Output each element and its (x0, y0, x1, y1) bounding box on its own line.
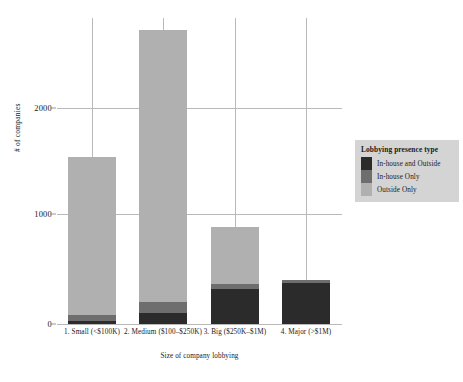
bar-major-segment-in-house-and-outside (282, 283, 330, 325)
y-tick-mark-1000 (50, 214, 56, 215)
x-tick-label-major: 4. Major (>$1M) (281, 328, 331, 336)
legend-label-in-house-only: In-house Only (377, 173, 420, 181)
legend-swatch-icon-in-house-and-outside (361, 157, 372, 170)
gridline-y-0 (57, 324, 342, 325)
x-tick-label-medium: 2. Medium ($100–$250K) (124, 328, 202, 336)
y-axis-title: # of companies (13, 103, 22, 152)
x-axis-title: Size of company lobbying (57, 352, 342, 360)
legend-label-in-house-and-outside: In-house and Outside (377, 160, 440, 168)
y-tick-mark-0 (50, 324, 56, 325)
legend-item-in-house-only[interactable]: In-house Only (359, 170, 455, 183)
bar-big[interactable] (211, 227, 259, 324)
legend-swatch-icon-outside-only (361, 183, 372, 196)
legend-title: Lobbying presence type (361, 145, 455, 154)
bar-big-segment-outside-only (211, 227, 259, 285)
bar-small-segment-outside-only (68, 157, 116, 315)
x-axis-ticks: 1. Small (<$100K) 2. Medium ($100–$250K)… (57, 328, 342, 342)
stacked-bar-chart: 0 1000 2000 # of companies (0, 0, 463, 382)
bar-medium-segment-outside-only (139, 30, 187, 302)
y-axis-ticks: 0 1000 2000 (0, 18, 52, 324)
legend-label-outside-only: Outside Only (377, 186, 417, 194)
x-tick-label-small: 1. Small (<$100K) (64, 328, 120, 336)
bars-layer (57, 18, 342, 324)
bar-medium-segment-in-house-only (139, 302, 187, 313)
x-tick-label-big: 3. Big ($250K–$1M) (204, 328, 267, 336)
bar-major[interactable] (282, 280, 330, 324)
bar-medium[interactable] (139, 30, 187, 324)
bar-medium-segment-in-house-and-outside (139, 313, 187, 324)
legend-swatch-icon-in-house-only (361, 170, 372, 183)
legend-item-outside-only[interactable]: Outside Only (359, 183, 455, 196)
legend-item-in-house-and-outside[interactable]: In-house and Outside (359, 157, 455, 170)
bar-big-segment-in-house-and-outside (211, 289, 259, 324)
plot-area (57, 18, 342, 324)
bar-small[interactable] (68, 157, 116, 324)
bar-small-segment-in-house-and-outside (68, 321, 116, 324)
legend-items: In-house and Outside In-house Only Outsi… (359, 157, 455, 196)
legend: Lobbying presence type In-house and Outs… (355, 140, 459, 202)
y-tick-mark-2000 (50, 108, 56, 109)
